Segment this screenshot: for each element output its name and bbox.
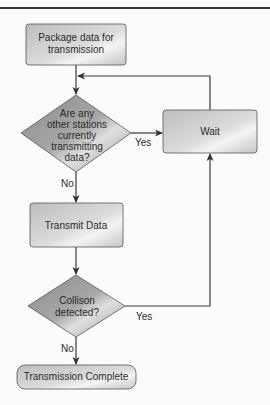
node-check-label-5: data? bbox=[64, 152, 89, 163]
edge-label-collision-yes: Yes bbox=[136, 311, 152, 322]
node-wait-label: Wait bbox=[200, 126, 220, 137]
arrow-collision-yes-to-wait bbox=[125, 154, 210, 306]
node-check-stations: Are any other stations currently transmi… bbox=[21, 95, 131, 172]
node-collision-detected: Collison detected? bbox=[28, 275, 125, 337]
flowchart: Package data for transmission Are any ot… bbox=[0, 0, 270, 405]
node-transmit-label: Transmit Data bbox=[45, 220, 108, 231]
node-check-label-1: Are any bbox=[60, 108, 94, 119]
node-package-label-2: transmission bbox=[48, 44, 104, 55]
node-transmission-complete: Transmission Complete bbox=[17, 365, 136, 389]
edge-label-check-yes: Yes bbox=[135, 137, 151, 148]
node-check-label-4: transmitting bbox=[51, 141, 103, 152]
edge-label-collision-no: No bbox=[61, 343, 74, 354]
node-package-label-1: Package data for bbox=[38, 32, 114, 43]
edge-label-check-no: No bbox=[61, 178, 74, 189]
arrow-wait-to-check bbox=[78, 76, 210, 110]
node-collision-label-2: detected? bbox=[55, 307, 99, 318]
node-wait: Wait bbox=[163, 110, 257, 153]
node-check-label-2: other stations bbox=[47, 119, 107, 130]
node-check-label-3: currently bbox=[58, 130, 96, 141]
node-package-data: Package data for transmission bbox=[26, 24, 126, 65]
node-complete-label: Transmission Complete bbox=[24, 371, 129, 382]
node-transmit-data: Transmit Data bbox=[30, 203, 123, 247]
node-collision-label-1: Collison bbox=[59, 295, 95, 306]
